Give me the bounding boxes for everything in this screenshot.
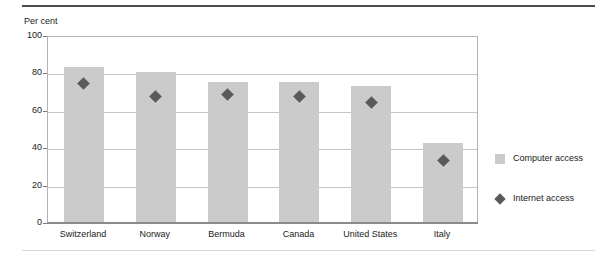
legend-item-internet-access: Internet access xyxy=(495,192,605,206)
y-axis-tick-mark xyxy=(43,186,47,187)
y-axis-title: Per cent xyxy=(24,16,58,27)
y-axis-tick-label: 80 xyxy=(32,68,42,77)
x-axis-tick-label: Italy xyxy=(406,229,478,240)
y-axis-tick-mark xyxy=(43,148,47,149)
gridline xyxy=(48,74,477,75)
chart-legend: Computer access Internet access xyxy=(495,152,605,232)
gridline xyxy=(48,187,477,188)
square-icon xyxy=(495,154,505,164)
y-axis-tick-mark xyxy=(43,223,47,224)
x-axis-tick-label: Norway xyxy=(119,229,191,240)
plot-area xyxy=(47,36,478,223)
y-axis-tick-label: 60 xyxy=(32,106,42,115)
y-axis-tick-mark xyxy=(43,36,47,37)
y-axis-tick-labels: 020406080100 xyxy=(15,36,42,223)
x-axis-tick-label: United States xyxy=(334,229,406,240)
bar xyxy=(208,82,248,222)
gridline xyxy=(48,112,477,113)
bar xyxy=(64,67,104,222)
y-axis-tick-label: 0 xyxy=(37,218,42,227)
chart-figure: Per cent 020406080100 SwitzerlandNorwayB… xyxy=(0,0,609,258)
x-axis-tick-label: Canada xyxy=(263,229,335,240)
y-axis-tick-mark xyxy=(43,111,47,112)
gridline xyxy=(48,149,477,150)
legend-item-label: Computer access xyxy=(513,153,583,164)
y-axis-tick-label: 100 xyxy=(27,31,42,40)
y-axis-tick-label: 20 xyxy=(32,181,42,190)
diamond-icon xyxy=(494,193,505,204)
y-axis-tick-mark xyxy=(43,73,47,74)
y-axis-tick-label: 40 xyxy=(32,143,42,152)
x-axis-tick-label: Switzerland xyxy=(47,229,119,240)
plot-inner xyxy=(48,37,477,222)
x-axis-tick-label: Bermuda xyxy=(191,229,263,240)
legend-item-label: Internet access xyxy=(513,193,574,204)
bottom-divider-rule xyxy=(22,250,595,251)
legend-item-computer-access: Computer access xyxy=(495,152,605,166)
x-axis-baseline xyxy=(47,222,478,224)
